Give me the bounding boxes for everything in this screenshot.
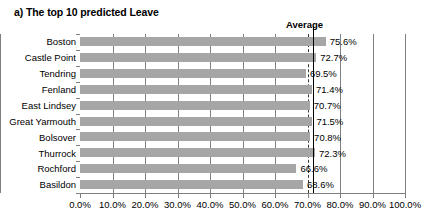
bar-row <box>80 50 405 66</box>
x-tick-mark <box>340 194 341 198</box>
value-label: 75.6% <box>330 36 357 47</box>
y-tick-mark <box>76 82 80 83</box>
average-annotation-label: Average <box>286 19 323 30</box>
category-axis-labels: BostonCastle PointTendringFenlandEast Li… <box>0 34 76 193</box>
x-tick-label: 20.0% <box>132 199 159 210</box>
bar-row <box>80 145 405 161</box>
plot-right-border <box>405 34 406 193</box>
category-label-castle-point: Castle Point <box>25 52 76 63</box>
bar-rochford[interactable] <box>80 164 296 173</box>
x-tick-mark <box>178 194 179 198</box>
y-tick-mark <box>76 177 80 178</box>
value-label: 68.6% <box>307 179 334 190</box>
x-tick-label: 80.0% <box>327 199 354 210</box>
category-label-east-lindsey: East Lindsey <box>22 100 76 111</box>
value-label: 71.5% <box>316 116 343 127</box>
x-axis-ticks: 0.0%10.0%20.0%30.0%40.0%50.0%60.0%70.0%8… <box>0 194 425 214</box>
value-label: 70.8% <box>314 132 341 143</box>
bar-basildon[interactable] <box>80 180 303 189</box>
chart-figure: a) The top 10 predicted Leave Average Bo… <box>0 0 425 221</box>
value-label: 70.7% <box>314 100 341 111</box>
x-tick-mark <box>145 194 146 198</box>
category-label-boston: Boston <box>46 36 76 47</box>
bar-row <box>80 98 405 114</box>
value-label: 66.6% <box>300 163 327 174</box>
y-tick-mark <box>76 193 80 194</box>
x-tick-mark <box>405 194 406 198</box>
bar-thurrock[interactable] <box>80 148 315 157</box>
value-label: 71.4% <box>316 84 343 95</box>
x-tick-label: 0.0% <box>69 199 91 210</box>
bar-row <box>80 129 405 145</box>
bar-tendring[interactable] <box>80 69 306 78</box>
y-tick-mark <box>76 129 80 130</box>
x-tick-mark <box>210 194 211 198</box>
bar-great-yarmouth[interactable] <box>80 117 312 126</box>
y-tick-mark <box>76 98 80 99</box>
y-tick-mark <box>76 34 80 35</box>
y-tick-mark <box>76 161 80 162</box>
bar-castle-point[interactable] <box>80 53 316 62</box>
x-tick-mark <box>80 194 81 198</box>
x-tick-label: 60.0% <box>262 199 289 210</box>
x-tick-label: 10.0% <box>99 199 126 210</box>
y-tick-mark <box>76 66 80 67</box>
bar-row <box>80 82 405 98</box>
bar-fenland[interactable] <box>80 85 312 94</box>
x-tick-label: 30.0% <box>164 199 191 210</box>
value-label: 72.7% <box>320 52 347 63</box>
x-tick-label: 90.0% <box>359 199 386 210</box>
page-title: a) The top 10 predicted Leave <box>14 6 159 18</box>
bar-bolsover[interactable] <box>80 132 310 141</box>
y-tick-mark <box>76 50 80 51</box>
category-label-rochford: Rochford <box>37 163 76 174</box>
value-label: 69.5% <box>310 68 337 79</box>
x-tick-mark <box>373 194 374 198</box>
y-tick-mark <box>76 145 80 146</box>
category-label-basildon: Basildon <box>40 179 76 190</box>
x-tick-label: 100.0% <box>389 199 421 210</box>
category-label-fenland: Fenland <box>42 84 76 95</box>
plot-area <box>80 34 405 193</box>
bar-boston[interactable] <box>80 37 326 46</box>
category-label-thurrock: Thurrock <box>39 148 76 159</box>
y-axis-line <box>0 34 1 193</box>
x-tick-mark <box>308 194 309 198</box>
x-tick-mark <box>243 194 244 198</box>
bar-row <box>80 161 405 177</box>
bar-row <box>80 66 405 82</box>
x-tick-label: 40.0% <box>197 199 224 210</box>
x-tick-mark <box>113 194 114 198</box>
bar-row <box>80 177 405 193</box>
bar-east-lindsey[interactable] <box>80 101 310 110</box>
bar-row <box>80 114 405 130</box>
category-label-great-yarmouth: Great Yarmouth <box>9 116 76 127</box>
x-tick-label: 50.0% <box>229 199 256 210</box>
category-label-bolsover: Bolsover <box>39 132 76 143</box>
x-tick-mark <box>275 194 276 198</box>
x-tick-label: 70.0% <box>294 199 321 210</box>
value-label: 72.3% <box>319 148 346 159</box>
y-tick-mark <box>76 114 80 115</box>
category-label-tendring: Tendring <box>40 68 76 79</box>
